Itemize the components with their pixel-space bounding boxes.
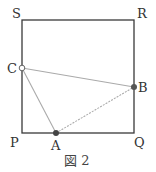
- segment-cb: [22, 68, 134, 87]
- segment-ab: [56, 87, 134, 133]
- square-pqrs: [22, 20, 134, 133]
- segment-ca: [22, 68, 56, 133]
- label-a: A: [50, 138, 61, 153]
- label-c: C: [7, 61, 17, 76]
- label-b: B: [138, 80, 148, 95]
- point-c-open-icon: [19, 65, 25, 71]
- point-a-filled-icon: [53, 130, 59, 136]
- figure-canvas: S R P Q C B A 図 2: [0, 0, 156, 172]
- point-b-filled-icon: [131, 84, 137, 90]
- label-r: R: [137, 6, 148, 21]
- figure-caption: 図 2: [64, 153, 89, 168]
- label-p: P: [10, 135, 19, 150]
- label-s: S: [12, 6, 21, 21]
- label-q: Q: [134, 135, 145, 150]
